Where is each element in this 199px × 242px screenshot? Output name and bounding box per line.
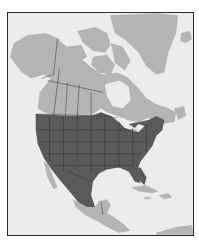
north-america-range-map (8, 13, 193, 235)
jamaica (145, 197, 151, 199)
map-frame (7, 12, 194, 236)
